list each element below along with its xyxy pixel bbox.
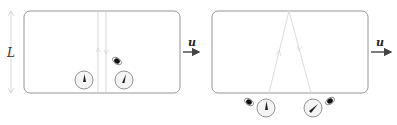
left-panel: L u [6,11,199,93]
velocity-label: u [376,36,384,49]
right-panel: u [212,11,391,117]
velocity-arrow: u [371,36,391,52]
photon-emitter-icon [111,56,123,67]
light-path-down [289,11,311,93]
clock-icon [115,71,133,89]
photon-emitter-icon [324,96,336,107]
height-label: L [6,46,15,60]
clock-icon [304,99,322,117]
velocity-label: u [188,36,196,49]
box-left [24,11,180,93]
relativity-diagram: L u [0,0,397,125]
light-path-up [269,11,289,93]
clock-icon [75,71,93,89]
clock-icon [257,99,275,117]
box-right [212,11,368,93]
velocity-arrow: u [183,36,199,52]
photon-emitter-icon [243,97,255,108]
height-dimension: L [6,11,15,93]
